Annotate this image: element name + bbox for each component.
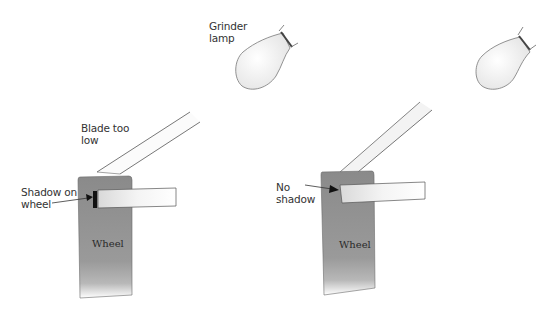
grinder-lamp-label-line1: Grinder [209,20,247,32]
diagram-canvas [0,0,560,310]
shadow-mark [93,191,97,208]
blade-too-low-label: Blade too low [81,122,129,146]
grinder-lamp-label-line2: lamp [209,32,247,44]
blade-too-low-line2: low [81,134,129,146]
lamp-bulb-icon [476,27,536,89]
tool-rest [340,182,425,203]
no-shadow-line1: No [276,181,315,193]
no-shadow-line2: shadow [276,193,315,205]
wheel-label-left: Wheel [92,238,124,249]
no-shadow-label: No shadow [276,181,315,205]
right-panel [305,102,432,295]
grinder-shadow-diagram: Grinder lamp Blade too low Shadow on whe… [0,0,560,310]
shadow-on-wheel-line1: Shadow on [21,186,77,198]
blade [340,102,432,172]
blade-too-low-line1: Blade too [81,122,129,134]
grinder-lamp-label: Grinder lamp [209,20,247,44]
wheel-label-right: Wheel [339,239,371,250]
shadow-on-wheel-label: Shadow on wheel [21,186,77,210]
tool-rest [98,188,176,208]
shadow-on-wheel-line2: wheel [21,198,77,210]
